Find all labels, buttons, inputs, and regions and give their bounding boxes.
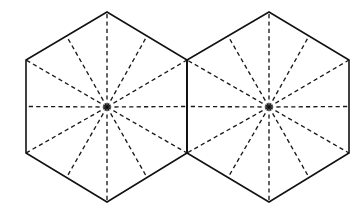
right-hexagon-center-point (268, 106, 271, 109)
hexagon-diagram-svg (0, 0, 364, 219)
figure-background (0, 0, 364, 219)
left-hexagon-center-point (106, 106, 109, 109)
hexagon-figure-canvas (0, 0, 364, 219)
